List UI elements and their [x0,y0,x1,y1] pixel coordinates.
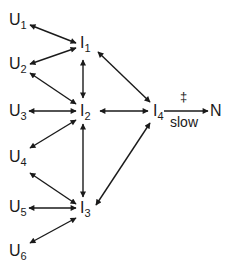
node-u3: U3 [9,103,27,122]
mechanism-diagram: U1 U2 U3 U4 U5 U6 I1 I2 I3 I4 N ‡ slow [0,0,230,269]
node-u6-sub: 6 [21,250,27,262]
arrow-u4-i2 [30,120,76,148]
node-u1-sub: 1 [21,19,27,31]
node-u3-base: U [9,102,21,119]
node-u5-base: U [9,198,21,215]
arrow-i3-i4 [96,123,150,205]
arrow-layer [0,0,230,269]
node-u5: U5 [9,199,27,218]
node-n: N [210,103,222,119]
node-u3-sub: 3 [21,110,27,122]
node-i3-sub: 3 [84,207,90,219]
arrow-u2-i1 [30,48,76,64]
node-i2: I2 [80,103,91,122]
node-i3: I3 [80,200,91,219]
node-u4: U4 [9,149,27,168]
node-i2-sub: 2 [84,110,90,122]
node-u1: U1 [9,12,27,31]
node-i4: I4 [153,103,164,122]
node-u2: U2 [9,56,27,75]
transition-state-symbol: ‡ [180,90,187,103]
arrow-u1-i1 [30,25,76,43]
arrow-u6-i3 [30,218,76,243]
node-u6: U6 [9,243,27,262]
node-u4-base: U [9,148,21,165]
arrow-i1-i4 [98,52,150,102]
node-i4-sub: 4 [157,110,163,122]
slow-step-label: slow [170,115,198,129]
node-u2-base: U [9,55,21,72]
arrow-u4-i3 [30,173,76,204]
node-n-base: N [210,102,222,119]
node-i1-sub: 1 [84,42,90,54]
node-u4-sub: 4 [21,156,27,168]
node-u6-base: U [9,242,21,259]
node-u5-sub: 5 [21,206,27,218]
node-u2-sub: 2 [21,63,27,75]
arrow-u2-i2 [30,73,76,104]
node-i1: I1 [80,35,91,54]
node-u1-base: U [9,11,21,28]
